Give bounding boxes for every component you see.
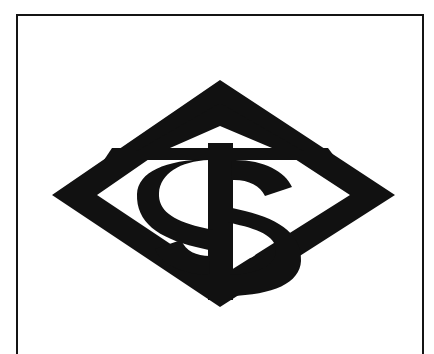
dollar-upper-counter-dot	[178, 185, 196, 201]
dollar-sign-upper-bowl	[231, 160, 292, 196]
logo-ink	[52, 80, 395, 307]
dollar-lower-counter-dot	[239, 242, 257, 258]
